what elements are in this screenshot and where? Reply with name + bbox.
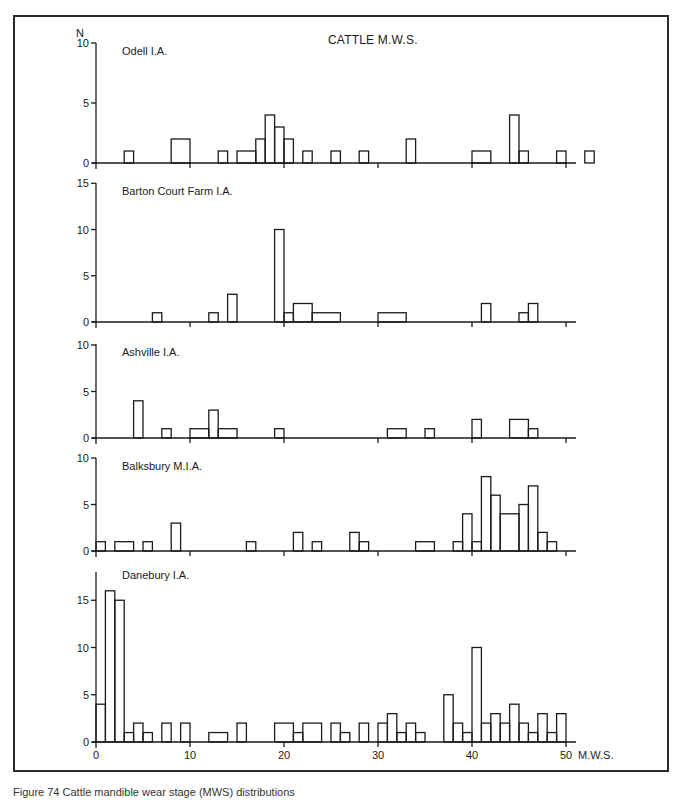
- y-tick-label: 10: [77, 452, 89, 464]
- x-tick-label: 20: [278, 749, 290, 761]
- y-tick-label: 10: [77, 37, 89, 49]
- histogram-bar: [115, 542, 134, 551]
- histogram-bar: [406, 139, 415, 163]
- histogram-bar: [162, 429, 171, 438]
- x-tick-label: 50: [560, 749, 572, 761]
- histogram-bar: [500, 514, 519, 551]
- histogram-bar: [209, 410, 218, 438]
- histogram-bar: [265, 115, 274, 163]
- histogram-bar: [510, 115, 519, 163]
- histogram-bar: [246, 542, 255, 551]
- histogram-bar: [293, 304, 312, 323]
- x-tick-label: 10: [184, 749, 196, 761]
- y-tick-label: 0: [83, 432, 89, 444]
- histogram-bar: [256, 139, 265, 163]
- histogram-bar: [416, 542, 435, 551]
- histogram-bar: [528, 486, 537, 551]
- histogram-bar: [284, 139, 293, 163]
- x-tick-label: 0: [93, 749, 99, 761]
- histogram-bar: [209, 733, 228, 742]
- histogram-bar: [275, 723, 294, 742]
- histogram-bar: [472, 151, 491, 163]
- histogram-bar: [275, 429, 284, 438]
- histogram-bar: [491, 714, 500, 742]
- histogram-bar: [472, 419, 481, 438]
- histogram-bar: [190, 429, 209, 438]
- histogram-bar: [528, 733, 537, 742]
- histogram-bar: [96, 542, 105, 551]
- histogram-bar: [519, 151, 528, 163]
- histogram-bar: [303, 151, 312, 163]
- histogram-bar: [453, 542, 462, 551]
- histogram-bar: [519, 505, 528, 552]
- panel-title: Balksbury M.I.A.: [122, 460, 202, 472]
- histogram-bar: [510, 704, 519, 742]
- histogram-bar: [378, 313, 406, 322]
- histogram-bar: [481, 304, 490, 323]
- histogram-bar: [209, 313, 218, 322]
- histogram-panel: 0510Ashville I.A.: [77, 339, 576, 444]
- histogram-panel: 05101501020304050M.W.S.Danebury I.A.: [77, 569, 614, 761]
- panel-title: Danebury I.A.: [122, 569, 189, 581]
- x-tick-label: 40: [466, 749, 478, 761]
- y-tick-label: 5: [83, 499, 89, 511]
- panel-title: Odell I.A.: [122, 45, 167, 57]
- histogram-bar: [143, 733, 152, 742]
- histogram-bar: [406, 723, 415, 742]
- histogram-bar: [472, 542, 481, 551]
- histogram-bar: [510, 419, 529, 438]
- histogram-panel: 0510Balksbury M.I.A.: [77, 452, 576, 557]
- histogram-bar: [228, 294, 237, 322]
- histogram-bar: [359, 542, 368, 551]
- y-tick-label: 0: [83, 736, 89, 748]
- histogram-bar: [284, 313, 293, 322]
- histogram-bar: [134, 723, 143, 742]
- histogram-bar: [171, 139, 190, 163]
- histogram-bar: [143, 542, 152, 551]
- histogram-bar: [387, 714, 396, 742]
- y-tick-label: 5: [83, 689, 89, 701]
- histogram-bar: [491, 495, 500, 551]
- histogram-panel: 0510Odell I.A.: [77, 37, 594, 169]
- histogram-bar: [340, 733, 349, 742]
- y-tick-label: 10: [77, 642, 89, 654]
- histogram-bar: [528, 429, 537, 438]
- histogram-bar: [218, 151, 227, 163]
- histogram-bar: [481, 477, 490, 551]
- histogram-bar: [275, 230, 284, 323]
- y-tick-label: 5: [83, 386, 89, 398]
- histogram-bar: [152, 313, 161, 322]
- histogram-bar: [453, 723, 462, 742]
- histogram-bar: [350, 532, 359, 551]
- histogram-bar: [237, 723, 246, 742]
- histogram-bar: [538, 532, 547, 551]
- histogram-bar: [359, 723, 368, 742]
- histogram-bar: [293, 733, 302, 742]
- histogram-bar: [557, 151, 566, 163]
- y-tick-label: 15: [77, 594, 89, 606]
- x-tick-label: 30: [372, 749, 384, 761]
- histogram-bar: [359, 151, 368, 163]
- histogram-bar: [416, 733, 425, 742]
- histogram-bar: [115, 600, 124, 742]
- histogram-bar: [105, 591, 114, 742]
- histogram-bar: [312, 542, 321, 551]
- histogram-bar: [181, 723, 190, 742]
- histogram-bar: [463, 514, 472, 551]
- histogram-panel: 051015Barton Court Farm I.A.: [77, 177, 576, 328]
- histogram-bar: [124, 151, 133, 163]
- histogram-bar: [124, 733, 133, 742]
- y-tick-label: 10: [77, 224, 89, 236]
- histogram-bar: [463, 733, 472, 742]
- histogram-bar: [472, 648, 481, 743]
- histogram-bar: [275, 127, 284, 163]
- histogram-bar: [557, 714, 566, 742]
- histogram-bar: [538, 714, 547, 742]
- histogram-bar: [303, 723, 322, 742]
- panel-title: Ashville I.A.: [122, 346, 179, 358]
- y-tick-label: 15: [77, 177, 89, 189]
- histogram-bar: [218, 429, 237, 438]
- histogram-bar: [585, 151, 594, 163]
- histogram-bar: [547, 733, 556, 742]
- histogram-bar: [331, 151, 340, 163]
